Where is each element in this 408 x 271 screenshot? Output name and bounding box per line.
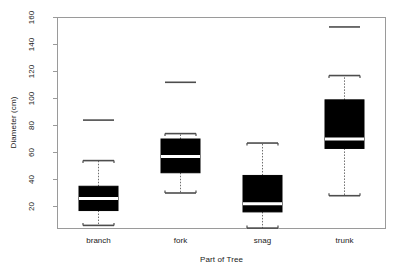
box-body (243, 175, 282, 211)
y-tick-label: 20 (27, 193, 36, 219)
y-tick-label: 80 (27, 112, 36, 138)
plot-canvas (0, 0, 408, 271)
x-tick-label: fork (151, 236, 211, 245)
y-tick-label: 100 (27, 85, 36, 111)
x-tick-label: branch (69, 236, 129, 245)
boxplot-figure: Diameter (cm) Part of Tree 2040608010012… (0, 0, 408, 271)
x-tick-label: snag (233, 236, 293, 245)
y-tick-label: 140 (27, 31, 36, 57)
y-tick-label: 120 (27, 58, 36, 84)
y-tick-label: 160 (27, 4, 36, 30)
x-axis-title: Part of Tree (57, 255, 386, 264)
y-tick-label: 40 (27, 166, 36, 192)
box-body (325, 100, 364, 149)
x-tick-label: trunk (315, 236, 375, 245)
y-axis-title: Diameter (cm) (9, 93, 18, 153)
y-tick-label: 60 (27, 139, 36, 165)
